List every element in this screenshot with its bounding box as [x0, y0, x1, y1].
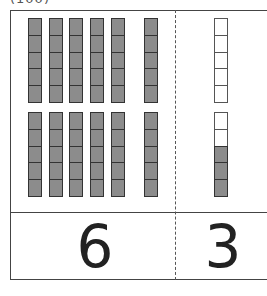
filled-unit-cell: [90, 112, 104, 130]
filled-unit-cell: [28, 68, 42, 86]
filled-unit-cell: [28, 146, 42, 164]
empty-unit-cell: [214, 18, 228, 36]
filled-unit-cell: [49, 179, 63, 197]
filled-unit-cell: [69, 52, 83, 70]
filled-unit-cell: [69, 112, 83, 130]
filled-unit-cell: [90, 179, 104, 197]
filled-unit-cell: [144, 162, 158, 180]
empty-unit-cell: [214, 68, 228, 86]
filled-unit-cell: [49, 146, 63, 164]
filled-unit-cell: [111, 18, 125, 36]
filled-unit-cell: [111, 52, 125, 70]
filled-unit-cell: [90, 85, 104, 103]
filled-unit-cell: [144, 68, 158, 86]
ten-rod-top-4: [90, 18, 104, 103]
filled-unit-cell: [111, 146, 125, 164]
filled-unit-cell: [69, 162, 83, 180]
filled-unit-cell: [144, 129, 158, 147]
filled-unit-cell: [90, 52, 104, 70]
filled-unit-cell: [111, 179, 125, 197]
filled-unit-cell: [69, 35, 83, 53]
filled-unit-cell: [90, 18, 104, 36]
ten-rod-bottom-6: [144, 112, 158, 197]
filled-unit-cell: [69, 146, 83, 164]
filled-unit-cell: [111, 35, 125, 53]
filled-unit-cell: [69, 129, 83, 147]
ten-rod-bottom-5: [111, 112, 125, 197]
ten-rod-bottom-4: [90, 112, 104, 197]
filled-unit-cell: [49, 18, 63, 36]
filled-unit-cell: [28, 35, 42, 53]
ten-rod-bottom-1: [28, 112, 42, 197]
empty-unit-cell: [214, 35, 228, 53]
ten-rod-bottom-2: [49, 112, 63, 197]
filled-unit-cell: [144, 112, 158, 130]
ten-rod-top-6: [144, 18, 158, 103]
filled-unit-cell: [111, 112, 125, 130]
ten-rod-bottom-3: [69, 112, 83, 197]
filled-unit-cell: [28, 112, 42, 130]
ones-rod-top: [214, 18, 228, 103]
filled-unit-cell: [90, 129, 104, 147]
ten-rod-top-3: [69, 18, 83, 103]
filled-unit-cell: [49, 85, 63, 103]
filled-unit-cell: [144, 179, 158, 197]
filled-unit-cell: [28, 18, 42, 36]
filled-unit-cell: [90, 68, 104, 86]
filled-unit-cell: [90, 146, 104, 164]
filled-unit-cell: [144, 85, 158, 103]
empty-unit-cell: [214, 52, 228, 70]
ten-rod-top-5: [111, 18, 125, 103]
filled-unit-cell: [144, 52, 158, 70]
empty-unit-cell: [214, 85, 228, 103]
filled-unit-cell: [49, 112, 63, 130]
filled-unit-cell: [111, 68, 125, 86]
filled-unit-cell: [49, 52, 63, 70]
tens-digit: 6: [20, 214, 170, 280]
filled-unit-cell: [69, 85, 83, 103]
filled-unit-cell: [49, 35, 63, 53]
filled-unit-cell: [28, 85, 42, 103]
empty-unit-cell: [214, 129, 228, 147]
filled-unit-cell: [144, 146, 158, 164]
filled-unit-cell: [28, 129, 42, 147]
filled-unit-cell: [214, 146, 228, 164]
filled-unit-cell: [144, 18, 158, 36]
ten-rod-top-1: [28, 18, 42, 103]
filled-unit-cell: [144, 35, 158, 53]
filled-unit-cell: [111, 129, 125, 147]
cropped-header-label: (100): [10, 0, 50, 6]
filled-unit-cell: [28, 52, 42, 70]
ones-digit: 3: [178, 214, 267, 280]
filled-unit-cell: [49, 162, 63, 180]
filled-unit-cell: [69, 179, 83, 197]
filled-unit-cell: [69, 68, 83, 86]
filled-unit-cell: [90, 35, 104, 53]
filled-unit-cell: [90, 162, 104, 180]
filled-unit-cell: [214, 179, 228, 197]
filled-unit-cell: [28, 179, 42, 197]
filled-unit-cell: [111, 85, 125, 103]
filled-unit-cell: [214, 162, 228, 180]
ten-rod-top-2: [49, 18, 63, 103]
filled-unit-cell: [28, 162, 42, 180]
filled-unit-cell: [49, 129, 63, 147]
filled-unit-cell: [69, 18, 83, 36]
tens-ones-dashed-divider: [175, 10, 176, 280]
empty-unit-cell: [214, 112, 228, 130]
filled-unit-cell: [111, 162, 125, 180]
ones-rod-bottom: [214, 112, 228, 197]
filled-unit-cell: [49, 68, 63, 86]
